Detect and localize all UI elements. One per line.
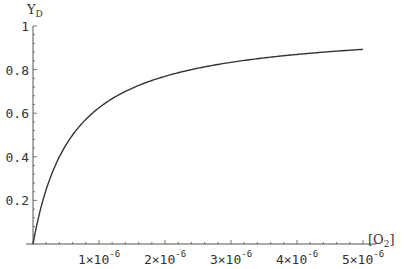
y-tick-label: 0.8 (6, 63, 29, 78)
x-tick-label: 2×10-6 (144, 249, 186, 267)
y-axis-label: YD (26, 2, 43, 19)
x-tick-label: 5×10-6 (342, 249, 384, 267)
ticks (33, 26, 376, 244)
y-tick-label: 0.4 (6, 150, 30, 165)
axes (26, 26, 376, 244)
y-tick-label: 0.6 (6, 106, 29, 121)
x-axis-label: [O2] (368, 232, 395, 249)
chart: 1×10-62×10-63×10-64×10-65×10-60.20.40.60… (0, 0, 413, 269)
y-tick-label: 1 (21, 19, 29, 34)
x-tick-label: 3×10-6 (210, 249, 252, 267)
series-line-yd (33, 49, 363, 244)
x-tick-label: 1×10-6 (78, 249, 120, 267)
x-tick-label: 4×10-6 (276, 249, 318, 267)
y-tick-label: 0.2 (6, 193, 29, 208)
tick-labels: 1×10-62×10-63×10-64×10-65×10-60.20.40.60… (6, 19, 385, 267)
